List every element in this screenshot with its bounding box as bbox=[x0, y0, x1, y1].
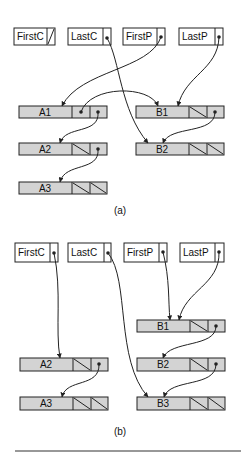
svg-text:A3: A3 bbox=[40, 398, 53, 409]
caption-b: (b) bbox=[114, 426, 126, 437]
caption-a: (a) bbox=[114, 205, 126, 216]
header-firstc-a: FirstC bbox=[14, 28, 55, 45]
svg-text:B1: B1 bbox=[156, 107, 169, 118]
svg-text:FirstP: FirstP bbox=[127, 247, 153, 258]
svg-text:LastC: LastC bbox=[71, 247, 97, 258]
node-b2-b: B2 bbox=[137, 358, 225, 371]
svg-text:B1: B1 bbox=[157, 321, 170, 332]
svg-text:FirstC: FirstC bbox=[18, 247, 45, 258]
svg-text:A2: A2 bbox=[39, 144, 52, 155]
node-a2-a: A2 bbox=[19, 143, 107, 155]
svg-text:B2: B2 bbox=[157, 359, 170, 370]
svg-text:A1: A1 bbox=[39, 107, 52, 118]
node-a3-b: A3 bbox=[20, 397, 108, 410]
node-a2-b: A2 bbox=[20, 358, 108, 371]
node-b1-a: B1 bbox=[136, 106, 224, 118]
linked-list-diagram: FirstC LastC FirstP LastP A1 bbox=[0, 0, 241, 454]
header-label: FirstP bbox=[126, 31, 152, 42]
svg-text:B3: B3 bbox=[157, 398, 170, 409]
svg-text:A2: A2 bbox=[40, 359, 53, 370]
header-firstc-b: FirstC bbox=[15, 243, 58, 262]
header-lastp-a: LastP bbox=[179, 28, 223, 45]
node-a1-a: A1 bbox=[19, 106, 107, 118]
panel-b: FirstC LastC FirstP LastP B1 bbox=[15, 243, 225, 437]
header-label: LastP bbox=[182, 31, 208, 42]
panel-a: FirstC LastC FirstP LastP A1 bbox=[14, 28, 224, 216]
svg-text:LastP: LastP bbox=[183, 247, 209, 258]
svg-text:A3: A3 bbox=[39, 183, 52, 194]
header-lastc-b: LastC bbox=[68, 243, 111, 262]
svg-text:B2: B2 bbox=[156, 144, 169, 155]
header-lastp-b: LastP bbox=[180, 243, 224, 262]
header-label: LastC bbox=[71, 31, 97, 42]
node-a3-a: A3 bbox=[19, 182, 107, 194]
header-firstp-b: FirstP bbox=[124, 243, 167, 262]
header-lastc-a: LastC bbox=[68, 28, 111, 45]
header-label: FirstC bbox=[17, 31, 44, 42]
node-b2-a: B2 bbox=[136, 143, 224, 155]
node-b3-b: B3 bbox=[137, 397, 225, 410]
node-b1-b: B1 bbox=[137, 320, 225, 332]
